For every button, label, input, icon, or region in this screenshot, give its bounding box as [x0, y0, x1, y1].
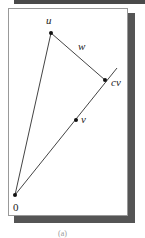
- label-u: u: [46, 14, 52, 26]
- ray-origin-cv: [15, 68, 117, 195]
- label-v: v: [81, 113, 86, 125]
- label-cv: cv: [111, 76, 121, 88]
- point-u: [49, 31, 53, 35]
- point-cv: [103, 78, 107, 82]
- label-w: w: [78, 40, 85, 52]
- figure-caption: (a): [58, 229, 67, 238]
- vector-diagram: [0, 0, 145, 238]
- label-origin: 0: [13, 201, 19, 213]
- point-origin: [13, 193, 17, 197]
- point-v: [74, 118, 78, 122]
- line-origin-u: [15, 33, 51, 195]
